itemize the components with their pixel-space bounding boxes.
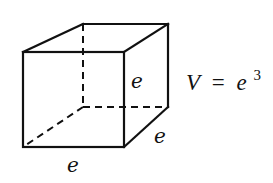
edge-top-left-depth bbox=[23, 24, 83, 52]
formula-lhs: V bbox=[186, 70, 203, 95]
visible-edges bbox=[23, 24, 168, 147]
edge-top-right-depth bbox=[124, 24, 168, 52]
label-bottom: e bbox=[67, 153, 79, 177]
formula-exponent: 3 bbox=[254, 67, 262, 83]
label-right-depth: e bbox=[154, 124, 166, 148]
label-front-right-height: e bbox=[131, 69, 143, 93]
formula-equals: = bbox=[212, 70, 225, 95]
hidden-edge-bottom-left-depth bbox=[23, 107, 83, 147]
front-face bbox=[23, 52, 124, 147]
cube-diagram: e e e V = e 3 bbox=[0, 0, 273, 183]
volume-formula: V = e 3 bbox=[186, 67, 261, 95]
formula-base: e bbox=[237, 70, 247, 95]
